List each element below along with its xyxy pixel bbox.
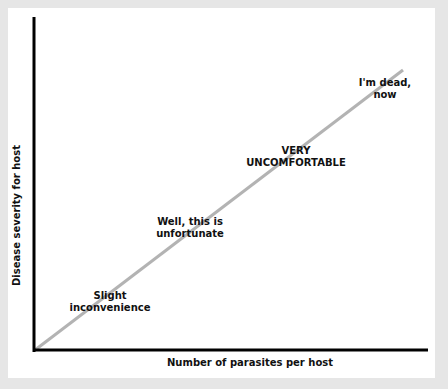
- x-axis-label: Number of parasites per host: [130, 357, 370, 369]
- annotation-very-uncomfortable: VERY UNCOMFORTABLE: [236, 145, 356, 169]
- y-axis-label: Disease severity for host: [11, 145, 22, 286]
- annotation-unfortunate: Well, this is unfortunate: [140, 216, 240, 240]
- annotation-dead: I'm dead, now: [345, 77, 425, 101]
- chart-plot: [0, 0, 448, 389]
- annotation-slight-inconvenience: Slight inconvenience: [60, 290, 160, 314]
